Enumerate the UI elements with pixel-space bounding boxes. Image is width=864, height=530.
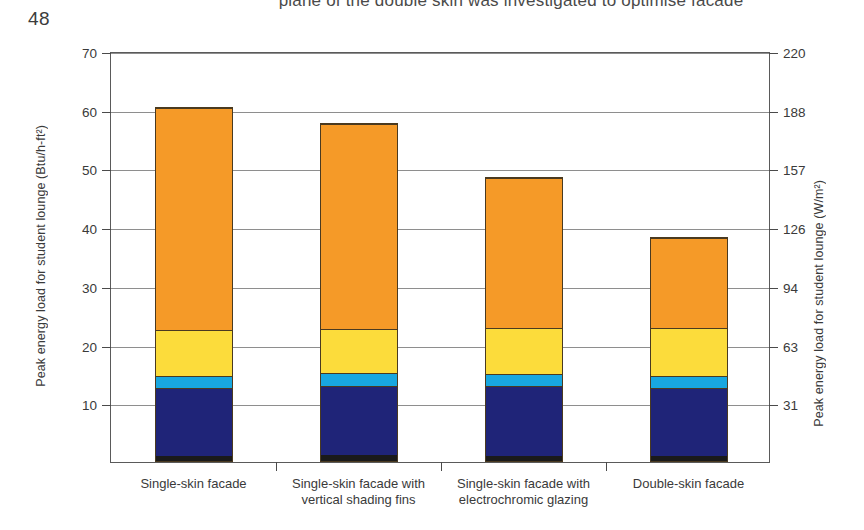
x-tick bbox=[441, 462, 442, 471]
y-tick-left bbox=[102, 229, 111, 230]
bar-segment-segment-3 bbox=[156, 376, 232, 388]
y-tick-label-right: 63 bbox=[783, 339, 798, 354]
bar-segment-segment-1 bbox=[486, 456, 562, 461]
bar-segment-segment-3 bbox=[651, 376, 727, 388]
y-tick-left bbox=[102, 170, 111, 171]
y-tick-label-left: 40 bbox=[82, 222, 97, 237]
y-tick-left bbox=[102, 347, 111, 348]
bar-4 bbox=[650, 237, 728, 462]
y-tick-label-right: 126 bbox=[783, 222, 806, 237]
bar-segment-segment-5 bbox=[651, 238, 727, 329]
bar-segment-segment-2 bbox=[651, 388, 727, 456]
y-tick-label-left: 60 bbox=[82, 104, 97, 119]
y-tick-right bbox=[769, 112, 778, 113]
y-tick-right bbox=[769, 288, 778, 289]
y-tick-right bbox=[769, 405, 778, 406]
y-tick-left bbox=[102, 288, 111, 289]
y-tick-left bbox=[102, 405, 111, 406]
bar-segment-segment-4 bbox=[486, 328, 562, 373]
bar-3 bbox=[485, 177, 563, 462]
bar-segment-segment-5 bbox=[156, 108, 232, 330]
y-tick-label-right: 94 bbox=[783, 280, 798, 295]
x-category-label: Single-skin facade with electrochromic g… bbox=[439, 476, 609, 509]
x-category-label: Single-skin facade bbox=[109, 476, 279, 492]
y-axis-title-left: Peak energy load for student lounge (Btu… bbox=[34, 125, 48, 387]
y-axis-title-right: Peak energy load for student lounge (W/m… bbox=[812, 180, 826, 427]
y-tick-right bbox=[769, 347, 778, 348]
y-tick-label-left: 50 bbox=[82, 163, 97, 178]
bar-segment-segment-3 bbox=[321, 373, 397, 386]
y-tick-right bbox=[769, 170, 778, 171]
bar-segment-segment-5 bbox=[486, 178, 562, 328]
bar-segment-segment-3 bbox=[486, 374, 562, 387]
bar-segment-segment-5 bbox=[321, 124, 397, 328]
y-tick-label-left: 10 bbox=[82, 398, 97, 413]
page-number: 48 bbox=[28, 8, 50, 30]
y-tick-label-right: 188 bbox=[783, 104, 806, 119]
y-tick-right bbox=[769, 229, 778, 230]
x-tick bbox=[606, 462, 607, 471]
y-tick-left bbox=[102, 112, 111, 113]
gridline bbox=[111, 53, 769, 54]
stacked-bar-chart: 70220601885015740126309420631031Single-s… bbox=[110, 52, 770, 463]
bar-segment-segment-2 bbox=[156, 388, 232, 456]
bar-segment-segment-1 bbox=[156, 456, 232, 461]
x-category-label: Single-skin facade with vertical shading… bbox=[274, 476, 444, 509]
y-tick-label-left: 70 bbox=[82, 46, 97, 61]
x-tick bbox=[276, 462, 277, 471]
bar-segment-segment-2 bbox=[321, 386, 397, 455]
bar-segment-segment-4 bbox=[321, 329, 397, 373]
bar-segment-segment-4 bbox=[156, 330, 232, 376]
y-tick-left bbox=[102, 53, 111, 54]
bar-segment-segment-1 bbox=[321, 455, 397, 461]
running-header-text: plane of the double skin was investigate… bbox=[181, 0, 841, 11]
y-tick-label-right: 220 bbox=[783, 46, 806, 61]
bar-2 bbox=[320, 123, 398, 462]
bar-segment-segment-4 bbox=[651, 328, 727, 376]
bar-1 bbox=[155, 107, 233, 462]
y-tick-label-right: 157 bbox=[783, 163, 806, 178]
bar-segment-segment-1 bbox=[651, 456, 727, 461]
x-category-label: Double-skin facade bbox=[604, 476, 774, 492]
bar-segment-segment-2 bbox=[486, 386, 562, 455]
y-tick-label-left: 30 bbox=[82, 280, 97, 295]
y-tick-label-left: 20 bbox=[82, 339, 97, 354]
y-tick-right bbox=[769, 53, 778, 54]
y-tick-label-right: 31 bbox=[783, 398, 798, 413]
